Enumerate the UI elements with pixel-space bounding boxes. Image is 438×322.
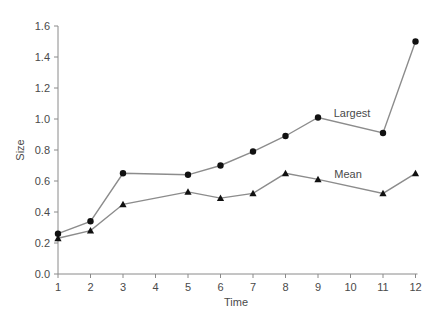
labels-layer: Time Size bbox=[14, 139, 248, 308]
x-tick-label: 1 bbox=[55, 281, 61, 293]
series-line bbox=[58, 42, 416, 234]
x-tick-label: 6 bbox=[217, 281, 223, 293]
circle-marker bbox=[315, 114, 321, 120]
x-tick-label: 10 bbox=[344, 281, 356, 293]
x-tick-label: 2 bbox=[87, 281, 93, 293]
x-tick-label: 5 bbox=[185, 281, 191, 293]
circle-marker bbox=[250, 148, 256, 154]
line-chart: 0.00.20.40.60.81.01.21.41.61234567891011… bbox=[0, 0, 438, 322]
triangle-marker bbox=[184, 188, 191, 194]
circle-marker bbox=[217, 162, 223, 168]
series-largest: Largest bbox=[55, 38, 419, 237]
y-tick-label: 0.0 bbox=[35, 268, 50, 280]
y-tick-label: 0.2 bbox=[35, 237, 50, 249]
x-tick-label: 11 bbox=[377, 281, 388, 293]
axes: 0.00.20.40.60.81.01.21.41.61234567891011… bbox=[35, 20, 422, 293]
circle-marker bbox=[282, 133, 288, 139]
y-tick-label: 1.4 bbox=[35, 51, 50, 63]
x-tick-label: 4 bbox=[152, 281, 158, 293]
y-axis-label: Size bbox=[14, 139, 26, 160]
x-tick-label: 3 bbox=[120, 281, 126, 293]
y-tick-label: 1.2 bbox=[35, 82, 50, 94]
circle-marker bbox=[185, 172, 191, 178]
series-mean: Mean bbox=[54, 168, 419, 241]
series-layer: LargestMean bbox=[54, 38, 419, 241]
x-axis-label: Time bbox=[224, 296, 248, 308]
x-tick-label: 8 bbox=[282, 281, 288, 293]
y-tick-label: 1.0 bbox=[35, 113, 50, 125]
series-label-largest: Largest bbox=[334, 107, 371, 119]
y-tick-label: 0.6 bbox=[35, 175, 50, 187]
triangle-marker bbox=[412, 170, 419, 176]
triangle-marker bbox=[282, 170, 289, 176]
circle-marker bbox=[120, 170, 126, 176]
x-tick-label: 7 bbox=[250, 281, 256, 293]
y-tick-label: 0.4 bbox=[35, 206, 50, 218]
series-line bbox=[58, 173, 416, 238]
x-tick-label: 9 bbox=[315, 281, 321, 293]
triangle-marker bbox=[249, 190, 256, 196]
x-tick-label: 12 bbox=[409, 281, 421, 293]
circle-marker bbox=[380, 130, 386, 136]
y-tick-label: 1.6 bbox=[35, 20, 50, 32]
circle-marker bbox=[412, 38, 418, 44]
series-label-mean: Mean bbox=[334, 168, 362, 180]
y-tick-label: 0.8 bbox=[35, 144, 50, 156]
circle-marker bbox=[87, 218, 93, 224]
